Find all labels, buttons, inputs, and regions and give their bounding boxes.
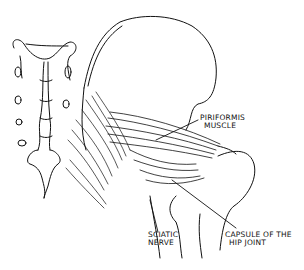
ilium [82, 16, 216, 150]
leader-lines [150, 120, 236, 232]
label-sciatic-nerve: SCIATIC NERVE [148, 231, 178, 247]
sacrum [13, 40, 76, 198]
label-piriformis-muscle: PIRIFORMIS MUSCLE [200, 114, 245, 130]
label-capsule-hip-joint: CAPSULE OF THE HIP JOINT [225, 231, 292, 247]
gluteal-muscle-fibers [66, 92, 130, 208]
